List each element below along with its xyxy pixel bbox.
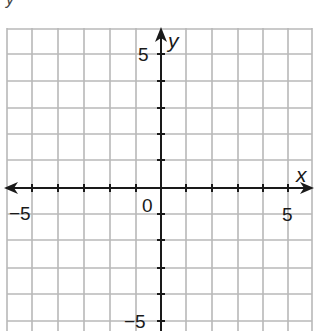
grid-svg bbox=[0, 0, 316, 331]
y-axis-label: y bbox=[168, 30, 179, 51]
x-tick-label-5: 5 bbox=[282, 205, 293, 224]
x-axis bbox=[4, 182, 314, 194]
top-text-fragment: y bbox=[6, 0, 14, 8]
x-tick-label-neg5: −5 bbox=[9, 204, 31, 223]
origin-label: 0 bbox=[142, 196, 153, 215]
y-tick-label-neg5: −5 bbox=[124, 312, 146, 331]
y-axis bbox=[155, 27, 167, 331]
x-axis-label: x bbox=[296, 164, 307, 185]
grid-lines bbox=[7, 28, 312, 331]
y-tick-label-5: 5 bbox=[138, 45, 149, 64]
